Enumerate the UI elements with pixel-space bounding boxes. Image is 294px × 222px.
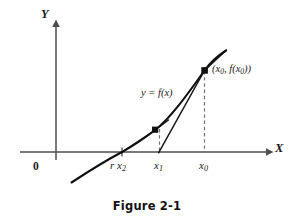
- x-axis-arrowhead: [266, 148, 274, 156]
- figure-container: Y X 0 r x2 x1 x0 y = f(x) (x0, f(x0)) Fi…: [0, 0, 294, 222]
- x-axis-label: X: [275, 142, 283, 155]
- point-coordinate-middle: , f(x: [224, 63, 240, 74]
- point-coordinate-open: (x: [212, 63, 220, 74]
- point-coordinate-label: (x0, f(x0)): [212, 64, 251, 76]
- y-axis: [52, 20, 60, 161]
- tick-label-x2-subscript: 2: [122, 164, 126, 173]
- y-axis-arrowhead: [52, 20, 60, 28]
- figure-plot-area: [0, 0, 294, 222]
- x-axis: [20, 148, 274, 156]
- tick-label-x2: r x2: [110, 160, 126, 173]
- origin-label: 0: [33, 161, 39, 173]
- y-axis-label: Y: [41, 8, 49, 21]
- point-marker-x0: [201, 67, 208, 74]
- tick-label-x1-subscript: 1: [159, 164, 163, 173]
- point-coordinate-close: )): [244, 63, 251, 74]
- tick-label-x0-subscript: 0: [204, 164, 208, 173]
- point-marker-x1: [152, 127, 158, 133]
- tick-label-x0: x0: [199, 160, 208, 173]
- tick-label-x1: x1: [154, 160, 163, 173]
- tick-label-x2-text: r x: [110, 159, 122, 171]
- figure-caption: Figure 2-1: [0, 199, 294, 213]
- curve-equation-label: y = f(x): [141, 88, 173, 99]
